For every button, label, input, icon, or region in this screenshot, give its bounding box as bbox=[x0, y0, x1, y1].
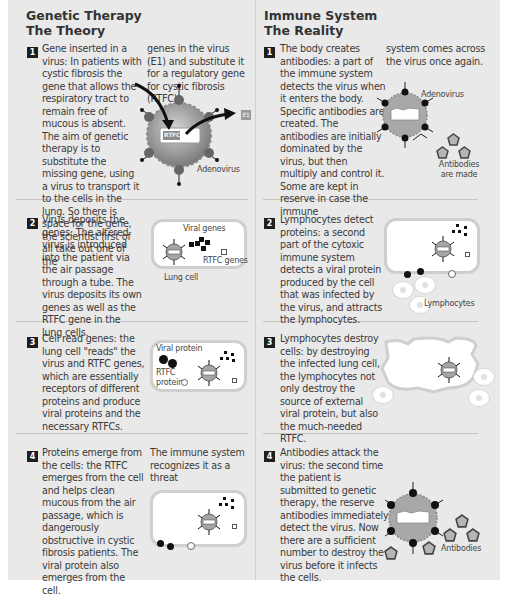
virus-icon bbox=[161, 239, 187, 265]
virus-icon bbox=[430, 236, 456, 262]
rtfc-protein-marker bbox=[187, 542, 195, 550]
left-column-title: Genetic Therapy The Theory bbox=[26, 8, 142, 38]
step-number-badge: 3 bbox=[27, 337, 38, 348]
viral-protein-marker bbox=[167, 543, 174, 550]
right-column-title: Immune System The Reality bbox=[264, 8, 377, 38]
step-number-badge: 2 bbox=[264, 218, 275, 229]
destroyed-cell-diagram bbox=[378, 336, 482, 394]
step-text: Virus deposits the genes: The altered vi… bbox=[42, 214, 142, 339]
rtfc-gene-marker bbox=[465, 252, 470, 257]
rtfc-genes-label: RTFC genes bbox=[203, 256, 248, 265]
antibody-icon bbox=[466, 528, 480, 542]
lymphocyte-icon bbox=[414, 276, 436, 294]
viral-gene-marker bbox=[452, 230, 455, 233]
viral-gene-marker bbox=[458, 230, 461, 233]
step-text-continued: system comes across the virus once again… bbox=[386, 43, 490, 68]
lymphocyte-icon bbox=[468, 389, 490, 407]
adenovirus-label: Adenovirus bbox=[197, 165, 240, 174]
row-divider bbox=[16, 433, 248, 434]
viral-protein-label: Viral protein bbox=[156, 344, 202, 353]
antibody-icon bbox=[455, 514, 469, 528]
step-text: Lymphocytes detect proteins: a second pa… bbox=[280, 214, 386, 327]
rtfc-protein-marker bbox=[448, 270, 456, 278]
viral-protein-marker bbox=[159, 355, 168, 364]
step-text: Cell read genes: the lung cell "reads" t… bbox=[42, 333, 148, 433]
step-text: The body creates antibodies: a part of t… bbox=[280, 43, 386, 218]
viral-gene-marker bbox=[464, 226, 467, 229]
lymphocytes-label: Lymphocytes bbox=[424, 299, 474, 308]
lung-cell-label: Lung cell bbox=[164, 273, 198, 282]
step-number-badge: 1 bbox=[264, 47, 275, 58]
viral-gene-marker bbox=[231, 506, 234, 509]
viral-gene-marker bbox=[220, 357, 223, 360]
viral-gene-marker bbox=[456, 224, 459, 227]
column-divider bbox=[255, 0, 256, 580]
virus-icon bbox=[196, 360, 222, 386]
antibody-icon bbox=[447, 133, 460, 146]
antibody-icon bbox=[443, 528, 457, 542]
viral-genes-label: Viral genes bbox=[183, 224, 225, 233]
adenovirus-label: Adenovirus bbox=[421, 90, 464, 99]
rtfc-gene-marker bbox=[232, 524, 237, 529]
rtfc-protein-marker bbox=[181, 379, 188, 386]
viral-gene-marker bbox=[231, 353, 234, 356]
antibody-icon bbox=[384, 546, 398, 560]
e1-gene-tag: E1 bbox=[241, 110, 251, 120]
viral-gene-marker bbox=[195, 241, 200, 246]
viral-gene-marker bbox=[464, 233, 467, 236]
label-line: Antibodies bbox=[437, 160, 481, 170]
step-text: Antibodies attack the virus: the second … bbox=[280, 447, 390, 585]
label-line: are made bbox=[437, 170, 481, 180]
step-number-badge: 2 bbox=[27, 218, 38, 229]
antibodies-label: Antibodies are made bbox=[437, 160, 481, 180]
viral-gene-marker bbox=[223, 497, 226, 500]
step-number-badge: 3 bbox=[264, 337, 275, 348]
viral-gene-marker bbox=[205, 240, 210, 245]
viral-gene-marker bbox=[201, 246, 206, 251]
step-text-continued: The immune system recognizes it as a thr… bbox=[150, 447, 252, 485]
step-text: Lymphocytes destroy cells: by destroying… bbox=[280, 333, 384, 446]
step-number-badge: 4 bbox=[27, 451, 38, 462]
viral-protein-marker bbox=[404, 271, 411, 278]
viral-gene-marker bbox=[224, 351, 227, 354]
lymphocyte-icon bbox=[392, 281, 414, 299]
title-line: Immune System bbox=[264, 8, 377, 23]
rtfc-gene-marker bbox=[221, 249, 227, 255]
viral-protein-marker bbox=[157, 540, 164, 547]
antibodies-label: Antibodies bbox=[441, 544, 481, 553]
lymphocyte-icon bbox=[372, 386, 394, 404]
viral-gene-marker bbox=[219, 503, 222, 506]
subtitle-line: The Theory bbox=[26, 23, 142, 38]
rtfc-label: RTFC bbox=[156, 368, 175, 377]
viral-protein-marker bbox=[168, 359, 177, 368]
step-number-badge: 4 bbox=[264, 451, 275, 462]
step-text: Proteins emerge from the cells: the RTFC… bbox=[42, 447, 146, 597]
antibody-icon bbox=[458, 146, 471, 159]
step-number-badge: 1 bbox=[27, 47, 38, 58]
viral-gene-marker bbox=[231, 499, 234, 502]
rtfc-gene-tag: RTFC bbox=[164, 131, 180, 138]
rtfc-gene-marker bbox=[232, 378, 237, 383]
viral-gene-marker bbox=[225, 503, 228, 506]
viral-gene-marker bbox=[189, 242, 194, 247]
subtitle-line: The Reality bbox=[264, 23, 377, 38]
virus-icon bbox=[196, 509, 222, 535]
viral-protein-marker bbox=[417, 268, 424, 275]
adenovirus-illustration bbox=[385, 482, 445, 554]
lymphocyte-icon bbox=[473, 368, 495, 386]
antibody-icon bbox=[436, 146, 449, 159]
virus-icon bbox=[436, 357, 462, 383]
viral-gene-marker bbox=[226, 357, 229, 360]
antibody-icon bbox=[422, 541, 436, 555]
title-line: Genetic Therapy bbox=[26, 8, 142, 23]
viral-gene-marker bbox=[232, 359, 235, 362]
protein-label: protein bbox=[156, 378, 183, 387]
